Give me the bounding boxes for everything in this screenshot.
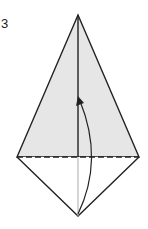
fold-diagram	[0, 0, 148, 229]
origami-step-diagram: 3	[0, 0, 148, 229]
